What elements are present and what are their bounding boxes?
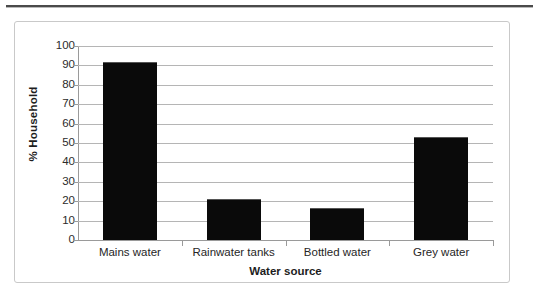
y-axis-tick-label: 60 <box>41 118 75 130</box>
y-axis-tick-mark <box>73 240 78 241</box>
bar[interactable] <box>207 199 261 240</box>
bar-slot <box>389 46 493 240</box>
x-axis-category-label: Bottled water <box>286 246 390 258</box>
x-axis-category-labels: Mains waterRainwater tanksBottled waterG… <box>78 246 493 264</box>
bar[interactable] <box>414 137 468 240</box>
x-axis-category-label: Mains water <box>78 246 182 258</box>
plot-area <box>78 46 493 240</box>
y-axis-tick-label: 30 <box>41 176 75 188</box>
chart-frame: % Household 1009080706050403020100 Mains… <box>14 21 510 283</box>
y-axis-tick-label: 50 <box>41 137 75 149</box>
y-axis-tick-label: 70 <box>41 98 75 110</box>
bar-slot <box>286 46 390 240</box>
bar-slot <box>78 46 182 240</box>
chart-plot-wrapper: % Household 1009080706050403020100 Mains… <box>15 22 509 282</box>
page-top-rule-shadow <box>6 7 533 8</box>
bar[interactable] <box>310 208 364 240</box>
x-axis-category-tick <box>493 240 494 246</box>
bar[interactable] <box>103 62 157 240</box>
x-axis-category-label: Grey water <box>389 246 493 258</box>
y-axis-tick-labels: 1009080706050403020100 <box>41 46 75 240</box>
y-axis-tick-label: 100 <box>41 40 75 52</box>
bar-slot <box>182 46 286 240</box>
y-axis-tick-label: 10 <box>41 215 75 227</box>
y-axis-tick-label: 0 <box>41 234 75 246</box>
x-axis-category-label: Rainwater tanks <box>182 246 286 258</box>
x-axis-title: Water source <box>78 265 493 277</box>
y-axis-title: % Household <box>27 64 39 184</box>
y-axis-tick-label: 40 <box>41 157 75 169</box>
y-axis-tick-label: 80 <box>41 79 75 91</box>
y-axis-tick-label: 90 <box>41 60 75 72</box>
y-axis-tick-label: 20 <box>41 195 75 207</box>
